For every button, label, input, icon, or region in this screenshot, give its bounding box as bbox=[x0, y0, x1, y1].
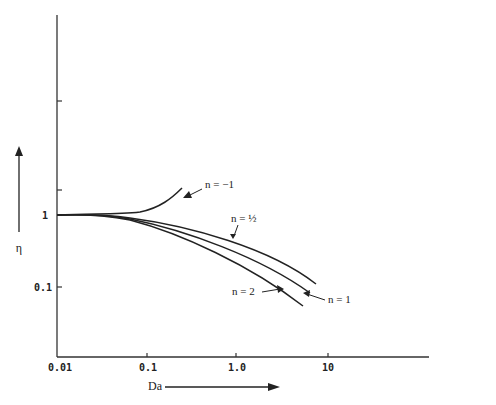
pointer-arrow bbox=[307, 294, 325, 300]
pointer-arrow bbox=[262, 289, 280, 292]
x-axis-label: Da bbox=[148, 379, 163, 393]
y-axis-label: η bbox=[16, 241, 22, 255]
label-n-minus-1: n = −1 bbox=[205, 178, 234, 190]
x-tick-label: 1.0 bbox=[228, 362, 246, 373]
arrowhead-icon bbox=[230, 234, 236, 239]
curve-n-half bbox=[57, 215, 316, 284]
x-tick-label: 0.01 bbox=[48, 362, 72, 373]
arrowhead-icon bbox=[268, 383, 280, 391]
y-tick-label: 1 bbox=[42, 210, 48, 221]
curve-n-1 bbox=[57, 215, 310, 293]
label-n-half: n = ½ bbox=[231, 212, 256, 224]
y-tick-label: 0.1 bbox=[34, 282, 52, 293]
label-n-1: n = 1 bbox=[328, 293, 351, 305]
x-tick-label: 0.1 bbox=[139, 362, 157, 373]
label-n-2: n = 2 bbox=[232, 285, 255, 297]
arrowhead-icon bbox=[15, 146, 23, 156]
x-tick-label: 10 bbox=[322, 362, 334, 373]
eta-vs-da-chart: 1 0.1 0.01 0.1 1.0 10 η Da n = −1 n = ½ … bbox=[0, 0, 496, 405]
curve-n-2 bbox=[57, 215, 303, 306]
curve-n-minus-1 bbox=[57, 188, 182, 215]
